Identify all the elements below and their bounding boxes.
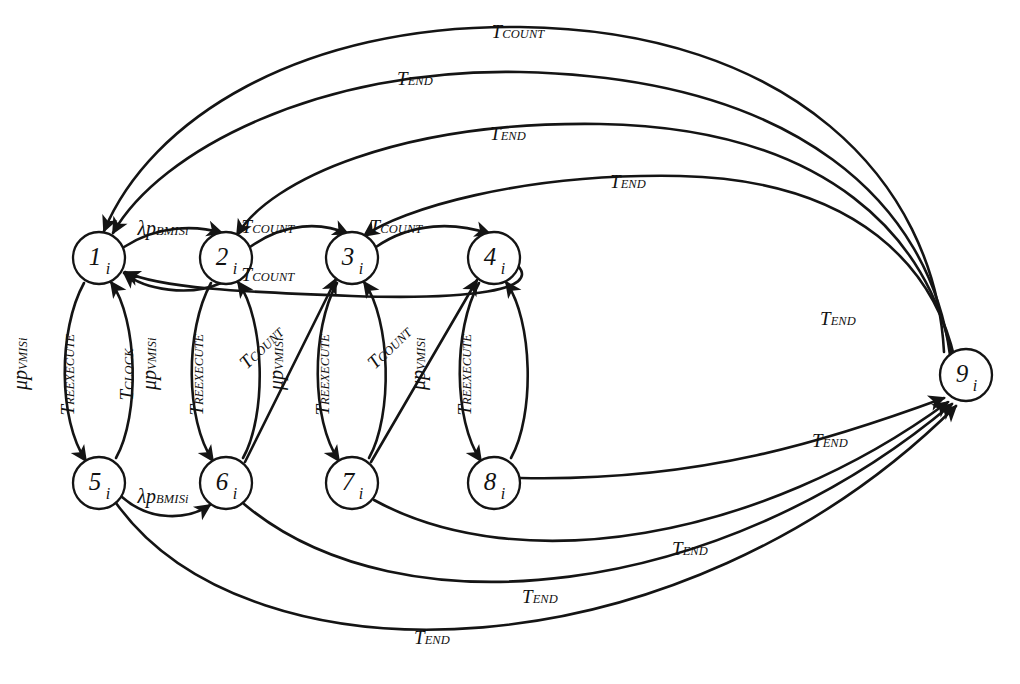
node-subscript-1: i [106, 260, 110, 277]
edge-p_b1 [520, 398, 944, 478]
edge-label-e_15: μpVMISi [10, 338, 30, 390]
edge-label-e_48: μpVMISi [408, 338, 428, 390]
edge-label-e_b4: TEND [414, 628, 450, 647]
edge-label-e_73: TREEXECUTE [313, 334, 332, 416]
state-node-4[interactable]: 4i [468, 232, 520, 284]
edge-p_84 [506, 282, 528, 458]
state-node-7[interactable]: 7i [326, 457, 378, 509]
edge-p_a1 [104, 27, 944, 352]
state-node-8[interactable]: 8i [468, 457, 520, 509]
node-subscript-4: i [501, 260, 505, 277]
edge-label-e_b1: TEND [812, 431, 848, 450]
node-subscript-3: i [359, 260, 363, 277]
edge-label-e_a3: TEND [490, 124, 526, 143]
edge-label-e_23: TCOUNT [242, 217, 295, 236]
node-layer: 1i2i3i4i5i6i7i8i9i [73, 232, 992, 509]
state-node-6[interactable]: 6i [200, 457, 252, 509]
state-diagram-canvas: 1i2i3i4i5i6i7i8i9i λpBMISiTCOUNTTCOUNTTC… [0, 0, 1020, 684]
state-node-3[interactable]: 3i [326, 232, 378, 284]
node-label-9: 9 [956, 360, 969, 387]
edge-label-e_26: μpVMISi [139, 338, 159, 390]
edge-label-e_51: TREEXECUTE [58, 334, 77, 416]
node-label-7: 7 [342, 468, 356, 495]
node-label-5: 5 [89, 468, 102, 495]
edge-label-e_a1: TCOUNT [492, 22, 545, 41]
node-subscript-6: i [233, 485, 237, 502]
node-label-4: 4 [484, 243, 497, 270]
edge-label-e_62: TREEXECUTE [187, 334, 206, 416]
node-label-1: 1 [89, 243, 102, 270]
edge-label-e_a5: TEND [820, 309, 856, 328]
state-node-9[interactable]: 9i [940, 349, 992, 401]
edge-label-e_41: TCOUNT [242, 265, 295, 284]
node-subscript-5: i [106, 485, 110, 502]
edge-label-e_84: TREEXECUTE [455, 334, 474, 416]
node-subscript-8: i [501, 485, 505, 502]
node-label-3: 3 [341, 243, 355, 270]
edge-label-e_a4: TEND [610, 172, 646, 191]
edge-label-e_a2: TEND [397, 69, 433, 88]
edge-label-e_clk: TCLOCK [117, 348, 136, 400]
node-label-2: 2 [216, 243, 229, 270]
node-label-6: 6 [216, 468, 229, 495]
edge-label-e_b2: TEND [672, 539, 708, 558]
state-node-1[interactable]: 1i [73, 232, 125, 284]
node-label-8: 8 [484, 468, 497, 495]
node-subscript-7: i [359, 485, 363, 502]
edge-p_a4 [364, 176, 955, 360]
edge-p_41 [125, 266, 522, 297]
node-subscript-2: i [233, 260, 237, 277]
state-node-5[interactable]: 5i [73, 457, 125, 509]
edge-label-e_b3: TEND [522, 587, 558, 606]
edge-label-e_34: TCOUNT [370, 217, 423, 236]
edge-label-e_56: λpBMISi [137, 486, 188, 506]
edge-label-e_12: λpBMISi [137, 218, 188, 238]
node-subscript-9: i [973, 377, 977, 394]
